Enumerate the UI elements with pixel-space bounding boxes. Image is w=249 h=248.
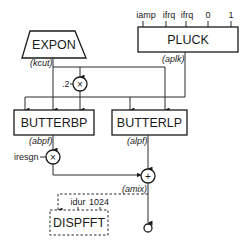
constant-point-two: .2: [62, 79, 70, 89]
dispfft-label: DISPFFT: [53, 216, 105, 230]
kcut-label: (kcut): [30, 58, 53, 68]
butterlp-unit: BUTTERLP (alpf): [112, 110, 187, 146]
pluck-label: PLUCK: [167, 33, 209, 47]
dispfft-input-idur: idur: [70, 197, 85, 207]
multiply-node-2: iresgn ×: [14, 150, 60, 164]
dispfft-input-1024: 1024: [89, 197, 109, 207]
multiply-icon: ×: [50, 152, 56, 163]
butterbp-unit: BUTTERBP (abpf): [14, 110, 94, 146]
dispfft-unit: idur 1024 DISPFFT: [50, 197, 109, 235]
amix-label: (amix): [122, 184, 147, 194]
aplk-label: (aplk): [162, 54, 185, 64]
expon-label: EXPON: [32, 38, 76, 52]
alpf-label: (alpf): [127, 136, 148, 146]
expon-unit: EXPON (kcut): [22, 31, 86, 68]
pluck-input-0: 0: [205, 10, 210, 20]
multiply-icon: ×: [77, 79, 83, 90]
output-terminal: [144, 224, 152, 232]
multiply-node-1: .2 ×: [62, 77, 87, 91]
abpf-label: (abpf): [29, 136, 53, 146]
pluck-input-ifrq-1: ifrq: [163, 10, 176, 20]
pluck-unit: iamp ifrq ifrq 0 1 PLUCK (aplk): [136, 10, 238, 64]
plus-icon: +: [145, 171, 151, 182]
signal-flow-diagram: EXPON (kcut) iamp ifrq ifrq 0 1 PLUCK (a…: [0, 0, 249, 248]
pluck-input-iamp: iamp: [136, 10, 156, 20]
butterbp-label: BUTTERBP: [21, 116, 88, 130]
pluck-input-ifrq-2: ifrq: [181, 10, 194, 20]
sum-node: + (amix): [122, 169, 155, 194]
butterlp-label: BUTTERLP: [117, 116, 182, 130]
constant-iresgn: iresgn: [14, 152, 39, 162]
pluck-input-1: 1: [228, 10, 233, 20]
